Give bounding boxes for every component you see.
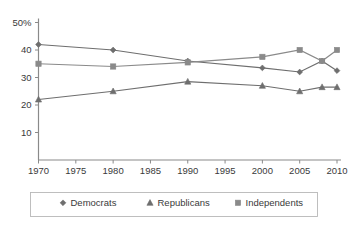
x-tick-label: 2005 bbox=[289, 165, 310, 176]
x-tick-label: 2000 bbox=[252, 165, 273, 176]
legend-marker-diamond-icon bbox=[60, 200, 66, 206]
data-point-democrats bbox=[297, 69, 303, 75]
y-tick-label: 50% bbox=[12, 17, 32, 28]
legend-item-republicans: Republicans bbox=[147, 197, 210, 208]
x-tick-label: 1970 bbox=[28, 165, 49, 176]
data-point-independents bbox=[36, 61, 41, 66]
line-chart: 50%40302010 1970197519801985199019952000… bbox=[0, 0, 348, 228]
legend-marker-square-icon bbox=[235, 200, 240, 205]
x-tick-label: 1975 bbox=[65, 165, 86, 176]
y-tick-label: 30 bbox=[21, 72, 32, 83]
data-point-independents bbox=[110, 64, 115, 69]
data-point-independents bbox=[334, 47, 339, 52]
data-point-democrats bbox=[36, 42, 42, 48]
data-point-independents bbox=[185, 60, 190, 65]
legend-marker-triangle-icon bbox=[147, 200, 153, 206]
y-tick-label: 20 bbox=[21, 99, 32, 110]
data-point-democrats bbox=[334, 68, 340, 74]
x-tick-label: 1980 bbox=[103, 165, 124, 176]
series-layer bbox=[35, 42, 340, 102]
series-democrats bbox=[36, 42, 340, 75]
y-axis: 50%40302010 bbox=[12, 17, 38, 160]
data-point-independents bbox=[260, 54, 265, 59]
legend-label-independents: Independents bbox=[246, 197, 304, 208]
y-tick-label: 40 bbox=[21, 44, 32, 55]
legend-item-independents: Independents bbox=[235, 197, 303, 208]
data-point-independents bbox=[297, 47, 302, 52]
legend-label-republicans: Republicans bbox=[158, 197, 211, 208]
series-republicans bbox=[35, 78, 340, 102]
chart-legend: DemocratsRepublicansIndependents bbox=[31, 193, 318, 217]
x-axis: 197019751980198519901995200020052010 bbox=[28, 160, 348, 176]
x-tick-label: 1985 bbox=[140, 165, 161, 176]
x-tick-label: 2010 bbox=[326, 165, 347, 176]
x-tick-label: 1995 bbox=[214, 165, 235, 176]
y-tick-label: 10 bbox=[21, 127, 32, 138]
data-point-democrats bbox=[259, 65, 265, 71]
legend-label-democrats: Democrats bbox=[71, 197, 117, 208]
data-point-democrats bbox=[110, 47, 116, 53]
x-tick-label: 1990 bbox=[177, 165, 198, 176]
chart-canvas: 50%40302010 1970197519801985199019952000… bbox=[0, 0, 348, 228]
legend-item-democrats: Democrats bbox=[60, 197, 117, 208]
data-point-independents bbox=[319, 58, 324, 63]
